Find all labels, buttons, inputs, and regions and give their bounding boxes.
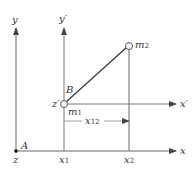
coordinate-diagram: y y′ x′ x z z′ A B m1 m2 x1 x2 x12 [0, 0, 196, 171]
x1-tick-label: x1 [59, 155, 69, 165]
z-axis-label: z [13, 155, 18, 165]
x12-distance-label: x12 [85, 116, 100, 126]
y-prime-axis-label: y′ [59, 14, 67, 24]
m2-label: m2 [135, 40, 149, 50]
rod-line [66, 47, 127, 102]
diagram-lines [0, 0, 196, 171]
x-axis-label: x [180, 146, 186, 156]
y-axis-label: y [12, 15, 18, 25]
x2-tick-label: x2 [124, 155, 134, 165]
z-prime-axis-label: z′ [52, 99, 60, 109]
mass-m1 [61, 101, 68, 108]
x-prime-axis-label: x′ [180, 99, 188, 109]
mass-m2 [126, 43, 133, 50]
origin-point-a [14, 149, 18, 153]
m1-label: m1 [68, 107, 82, 117]
point-b-label: B [66, 85, 73, 95]
point-a-label: A [21, 141, 28, 151]
